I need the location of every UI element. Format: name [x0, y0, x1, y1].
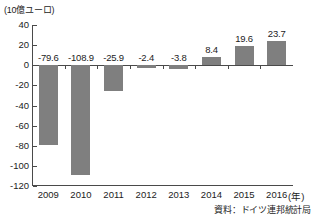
y-axis-tick-label: -120	[1, 180, 29, 191]
y-axis-tick	[33, 186, 37, 187]
bar	[202, 57, 221, 65]
y-axis-tick	[33, 126, 37, 127]
x-axis-title: (年)	[288, 189, 304, 203]
source-note: 資料：ドイツ連邦統計局	[214, 203, 311, 216]
x-axis-tick	[97, 65, 98, 69]
bar	[137, 65, 156, 67]
y-axis-tick	[33, 25, 37, 26]
x-axis-tick	[65, 65, 66, 69]
bar	[39, 65, 58, 145]
bar-chart: (10億ユーロ) 40200-20-40-60-80-100-120 20092…	[0, 0, 316, 219]
bar	[169, 65, 188, 69]
y-axis-tick-label: -40	[1, 100, 29, 111]
y-axis-tick	[33, 85, 37, 86]
y-axis-tick	[33, 146, 37, 147]
y-axis-tick	[33, 45, 37, 46]
y-axis-tick-label: 20	[1, 39, 29, 50]
y-axis-unit-label: (10億ユーロ)	[4, 3, 54, 16]
bar-value-label: 23.7	[254, 28, 300, 39]
x-axis-tick	[130, 65, 131, 69]
plot-area	[32, 25, 293, 186]
y-axis-tick	[33, 106, 37, 107]
y-axis-tick-label: -80	[1, 140, 29, 151]
y-axis-tick	[33, 166, 37, 167]
y-axis-tick	[33, 65, 37, 66]
y-axis-tick-label: -100	[1, 160, 29, 171]
x-axis-tick	[195, 65, 196, 69]
x-axis-spine	[32, 185, 293, 186]
y-axis-tick-label: 40	[1, 19, 29, 30]
x-axis-tick	[163, 65, 164, 69]
bar	[104, 65, 123, 91]
x-axis-tick	[228, 65, 229, 69]
bar-value-label: 8.4	[188, 44, 234, 55]
x-axis-tick	[260, 65, 261, 69]
y-axis-tick-label: -60	[1, 120, 29, 131]
bar	[235, 46, 254, 66]
y-axis-tick-label: -20	[1, 79, 29, 90]
bar	[71, 65, 90, 175]
bar	[267, 41, 286, 65]
